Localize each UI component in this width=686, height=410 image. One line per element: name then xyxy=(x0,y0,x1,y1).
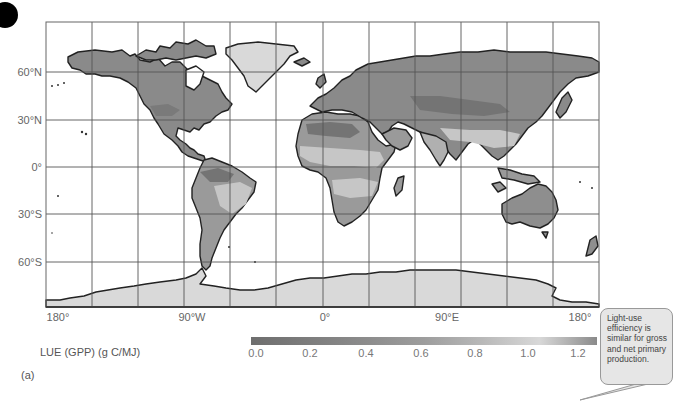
lon-label-90e: 90°E xyxy=(435,311,459,323)
colorbar xyxy=(251,337,597,345)
lat-label-0: 0° xyxy=(0,161,42,173)
lon-label-180e: 180° xyxy=(569,311,592,323)
panel-label: (a) xyxy=(21,369,34,381)
legend-title: LUE (GPP) (g C/MJ) xyxy=(40,346,140,358)
lat-label-30s: 30°S xyxy=(0,208,42,220)
lat-label-30n: 30°N xyxy=(0,114,42,126)
lon-label-90w: 90°W xyxy=(178,311,205,323)
lat-label-60s: 60°S xyxy=(0,256,42,268)
callout-tail xyxy=(580,384,648,400)
colorbar-tick: 0.4 xyxy=(358,347,373,359)
callout-text: Light-use efficiency is similar for gros… xyxy=(607,313,667,364)
lon-label-0: 0° xyxy=(320,311,331,323)
colorbar-tick: 1.2 xyxy=(570,347,585,359)
annotation-callout: Light-use efficiency is similar for gros… xyxy=(600,308,673,385)
colorbar-tick: 0.2 xyxy=(302,347,317,359)
colorbar-tick: 0.8 xyxy=(467,347,482,359)
colorbar-tick: 1.0 xyxy=(520,347,535,359)
colorbar-tick: 0.6 xyxy=(413,347,428,359)
lon-label-180w: 180° xyxy=(47,311,70,323)
colorbar-tick: 0.0 xyxy=(248,347,263,359)
lat-label-60n: 60°N xyxy=(0,66,42,78)
